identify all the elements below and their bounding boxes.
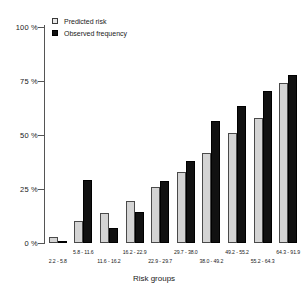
- x-axis-label: 22.9 - 29.7: [148, 258, 172, 264]
- x-axis-label: 49.2 - 55.2: [225, 249, 249, 255]
- bar-predicted-risk: [279, 83, 288, 243]
- x-axis-label: 2.2 - 5.8: [49, 258, 67, 264]
- plot-area: [45, 27, 301, 243]
- bar-group: [122, 27, 148, 243]
- bar-predicted-risk: [151, 187, 160, 243]
- y-axis-tick: [38, 81, 44, 82]
- bar-group: [96, 27, 122, 243]
- y-axis-label: 50 %: [0, 131, 38, 140]
- y-axis-label: 25 %: [0, 185, 38, 194]
- bar-predicted-risk: [228, 133, 237, 243]
- y-axis-label: 100 %: [0, 23, 38, 32]
- y-axis-tick: [38, 243, 44, 244]
- bar-observed-frequency: [160, 181, 169, 243]
- y-axis-tick: [38, 27, 44, 28]
- bar-predicted-risk: [202, 153, 211, 243]
- x-axis-label: 55.2 - 64.3: [251, 258, 275, 264]
- legend-label-predicted-risk: Predicted risk: [64, 18, 106, 25]
- bar-predicted-risk: [254, 118, 263, 243]
- light-square-icon: [52, 18, 58, 24]
- bar-group: [147, 27, 173, 243]
- x-axis-label: 64.3 - 91.9: [276, 249, 300, 255]
- x-axis-label: 5.8 - 11.6: [73, 249, 94, 255]
- bar-predicted-risk: [74, 221, 83, 243]
- bar-group: [250, 27, 276, 243]
- y-axis-label: 0 %: [0, 239, 38, 248]
- bar-predicted-risk: [126, 201, 135, 243]
- bar-predicted-risk: [177, 172, 186, 243]
- bar-group: [173, 27, 199, 243]
- bar-predicted-risk: [100, 213, 109, 243]
- y-axis-tick: [38, 189, 44, 190]
- x-axis-label: 29.7 - 38.0: [174, 249, 198, 255]
- bar-group: [199, 27, 225, 243]
- bar-observed-frequency: [263, 91, 272, 243]
- bar-group: [224, 27, 250, 243]
- bar-observed-frequency: [58, 241, 67, 243]
- x-axis-label: 16.2 - 22.9: [123, 249, 147, 255]
- x-axis-label: 38.0 - 49.2: [200, 258, 224, 264]
- risk-calibration-chart: Predicted risk Observed frequency 0 %25 …: [0, 0, 308, 295]
- bar-observed-frequency: [237, 106, 246, 243]
- bar-group: [71, 27, 97, 243]
- bar-observed-frequency: [135, 212, 144, 243]
- bar-observed-frequency: [83, 180, 92, 243]
- y-axis-label: 75 %: [0, 77, 38, 86]
- bar-group: [45, 27, 71, 243]
- bar-group: [275, 27, 301, 243]
- bar-observed-frequency: [211, 121, 220, 243]
- bar-observed-frequency: [288, 75, 297, 243]
- bar-predicted-risk: [49, 237, 58, 243]
- bar-observed-frequency: [186, 161, 195, 243]
- legend-item-predicted-risk: Predicted risk: [52, 16, 127, 26]
- x-axis-title: Risk groups: [0, 274, 308, 283]
- bar-observed-frequency: [109, 228, 118, 243]
- x-axis-label: 11.6 - 16.2: [97, 258, 120, 264]
- y-axis-tick: [38, 135, 44, 136]
